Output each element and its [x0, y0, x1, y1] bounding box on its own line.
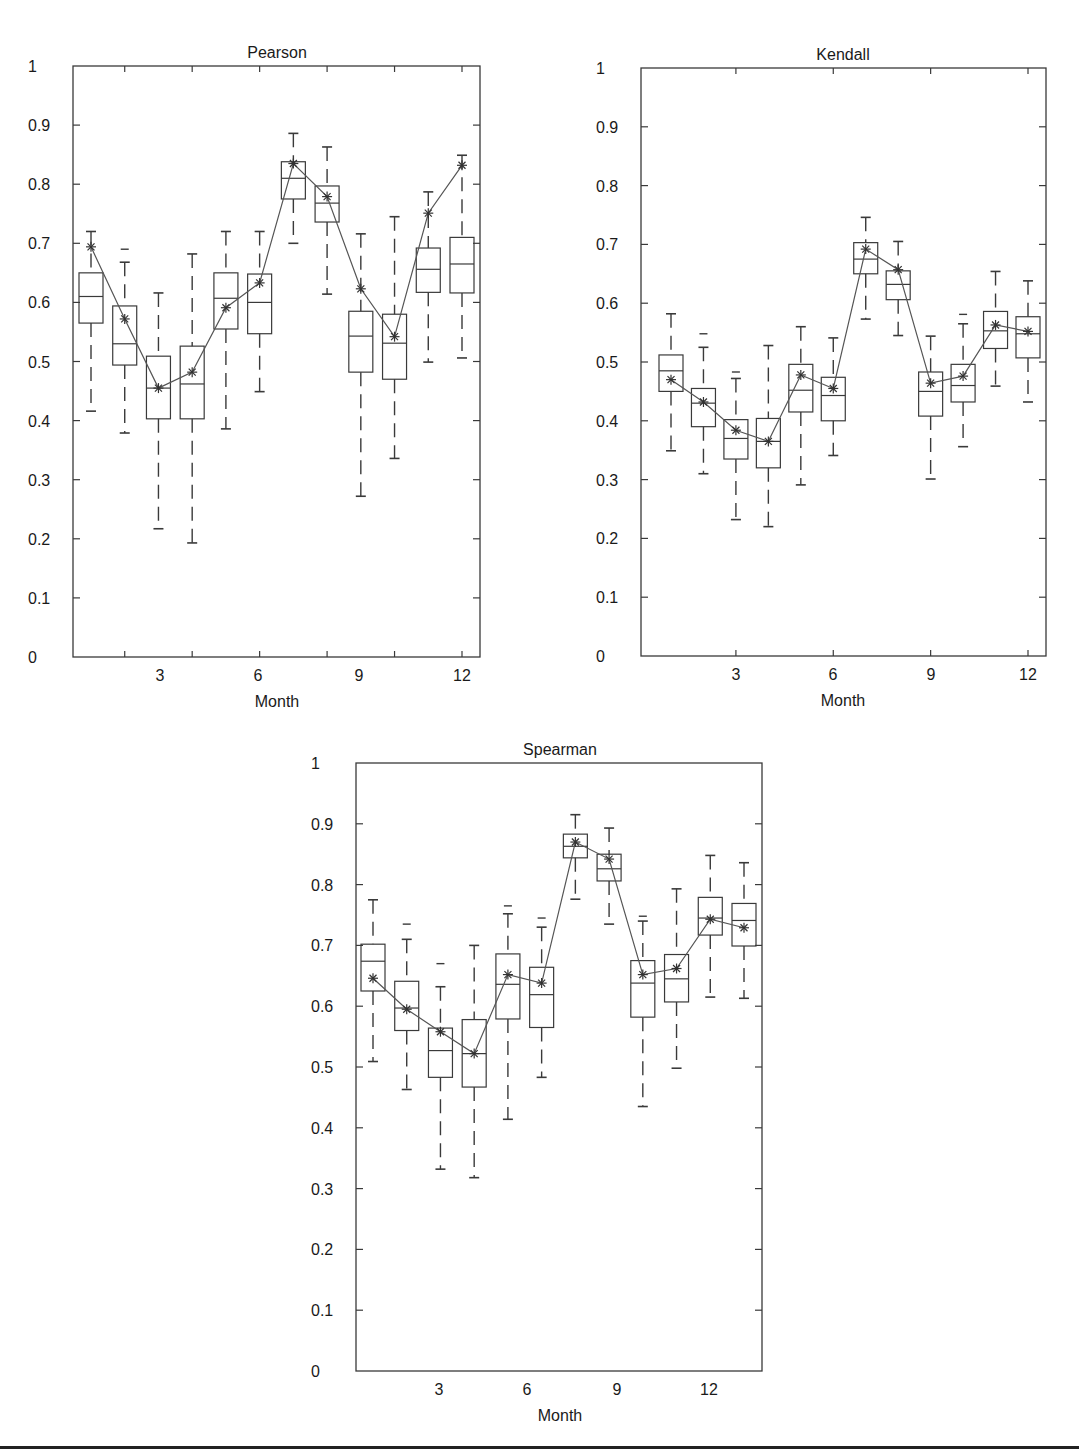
asterisk-marker-icon — [86, 242, 96, 252]
box-month-4 — [756, 346, 780, 527]
asterisk-marker-icon — [457, 160, 467, 170]
y-tick-label: 0.3 — [311, 1181, 333, 1198]
asterisk-marker-icon — [402, 1004, 412, 1014]
plot-frame — [356, 763, 762, 1371]
box-month-8 — [886, 241, 910, 335]
asterisk-marker-icon — [828, 383, 838, 393]
y-tick-label: 0.8 — [596, 178, 618, 195]
asterisk-marker-icon — [731, 425, 741, 435]
box-month-6 — [821, 338, 845, 456]
y-tick-label: 0.3 — [596, 472, 618, 489]
chart-title: Kendall — [816, 46, 869, 63]
asterisk-marker-icon — [423, 208, 433, 218]
box-month-3 — [146, 293, 170, 529]
y-tick-label: 0.5 — [311, 1059, 333, 1076]
asterisk-marker-icon — [672, 964, 682, 974]
box-month-5 — [214, 231, 238, 428]
y-tick-label: 0.2 — [28, 531, 50, 548]
asterisk-marker-icon — [666, 375, 676, 385]
y-tick-label: 0.2 — [596, 530, 618, 547]
box-month-9 — [349, 234, 373, 496]
observed-series-line — [671, 249, 1028, 441]
y-tick-label: 0.8 — [311, 877, 333, 894]
y-tick-label: 0.9 — [28, 117, 50, 134]
asterisk-marker-icon — [893, 265, 903, 275]
asterisk-marker-icon — [288, 159, 298, 169]
box-month-12 — [1016, 281, 1040, 402]
iqr-box — [631, 961, 655, 1018]
iqr-box — [691, 388, 715, 426]
asterisk-marker-icon — [991, 320, 1001, 330]
iqr-box — [416, 248, 440, 292]
asterisk-marker-icon — [739, 923, 749, 933]
iqr-box — [315, 186, 339, 222]
iqr-box — [349, 311, 373, 372]
y-tick-label: 0.1 — [28, 590, 50, 607]
y-tick-label: 0.6 — [311, 998, 333, 1015]
asterisk-marker-icon — [570, 837, 580, 847]
y-tick-label: 0.4 — [28, 413, 50, 430]
asterisk-marker-icon — [322, 192, 332, 202]
y-tick-label: 0.3 — [28, 472, 50, 489]
iqr-box — [665, 955, 689, 1002]
asterisk-marker-icon — [503, 970, 513, 980]
y-tick-label: 0 — [311, 1363, 320, 1380]
y-tick-label: 0.5 — [28, 354, 50, 371]
plot-frame — [641, 68, 1046, 656]
x-tick-label: 9 — [355, 667, 364, 684]
y-tick-label: 0.9 — [596, 119, 618, 136]
x-tick-label: 9 — [927, 666, 936, 683]
asterisk-marker-icon — [120, 314, 130, 324]
iqr-box — [79, 273, 103, 323]
box-month-5 — [789, 327, 813, 485]
asterisk-marker-icon — [1023, 326, 1033, 336]
asterisk-marker-icon — [255, 278, 265, 288]
y-tick-label: 0.5 — [596, 354, 618, 371]
y-tick-label: 0.4 — [596, 413, 618, 430]
asterisk-marker-icon — [763, 436, 773, 446]
box-month-11 — [698, 855, 722, 997]
y-tick-label: 0.7 — [311, 937, 333, 954]
asterisk-marker-icon — [604, 854, 614, 864]
asterisk-marker-icon — [537, 978, 547, 988]
y-tick-label: 0.9 — [311, 816, 333, 833]
asterisk-marker-icon — [926, 378, 936, 388]
box-month-3 — [428, 964, 452, 1170]
chart-title: Spearman — [523, 741, 597, 758]
y-tick-label: 1 — [311, 755, 320, 772]
x-tick-label: 6 — [829, 666, 838, 683]
box-month-9 — [919, 336, 943, 479]
y-tick-label: 0.1 — [596, 589, 618, 606]
y-tick-label: 0.4 — [311, 1120, 333, 1137]
pearson-chart: Pearson00.10.20.30.40.50.60.70.80.913691… — [28, 44, 480, 710]
box-month-7 — [281, 133, 305, 243]
figure: Pearson00.10.20.30.40.50.60.70.80.913691… — [0, 0, 1079, 1451]
asterisk-marker-icon — [435, 1027, 445, 1037]
box-month-12 — [450, 155, 474, 358]
asterisk-marker-icon — [705, 914, 715, 924]
y-tick-label: 0.7 — [596, 236, 618, 253]
iqr-box — [530, 967, 554, 1027]
asterisk-marker-icon — [153, 383, 163, 393]
box-month-10 — [665, 889, 689, 1068]
y-tick-label: 1 — [596, 60, 605, 77]
y-tick-label: 0.7 — [28, 235, 50, 252]
iqr-box — [450, 237, 474, 293]
x-tick-label: 3 — [732, 666, 741, 683]
spearman-chart: Spearman00.10.20.30.40.50.60.70.80.91369… — [311, 741, 762, 1424]
asterisk-marker-icon — [638, 970, 648, 980]
kendall-chart: Kendall00.10.20.30.40.50.60.70.80.913691… — [596, 46, 1046, 709]
box-month-1 — [79, 231, 103, 411]
x-axis-label: Month — [538, 1407, 582, 1424]
x-tick-label: 3 — [435, 1381, 444, 1398]
chart-title: Pearson — [247, 44, 307, 61]
x-tick-label: 12 — [700, 1381, 718, 1398]
y-tick-label: 0 — [596, 648, 605, 665]
y-tick-label: 0 — [28, 649, 37, 666]
x-axis-label: Month — [255, 693, 299, 710]
y-tick-label: 0.6 — [596, 295, 618, 312]
box-month-5 — [496, 906, 520, 1119]
iqr-box — [496, 954, 520, 1019]
x-axis-label: Month — [821, 692, 865, 709]
y-tick-label: 0.1 — [311, 1302, 333, 1319]
